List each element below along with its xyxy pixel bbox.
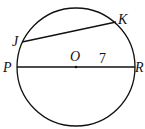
label-k: K xyxy=(117,12,128,27)
center-point xyxy=(75,66,78,69)
radius-label: 7 xyxy=(99,51,106,66)
label-o: O xyxy=(70,49,80,64)
circle-diagram: J K P R O 7 xyxy=(0,0,145,129)
label-p: P xyxy=(2,60,12,75)
label-j: J xyxy=(12,34,19,49)
chord-jk xyxy=(22,22,116,42)
label-r: R xyxy=(134,60,144,75)
